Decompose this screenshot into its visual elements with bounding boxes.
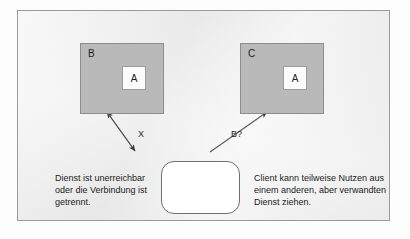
caption-left-line-3: getrennt. (55, 196, 147, 208)
caption-right-line-2: einem anderen, aber verwandten (254, 184, 386, 196)
diagram-figure: B A C A X B? Dienst ist unerreichbar ode… (0, 0, 410, 239)
client-node (161, 161, 240, 214)
caption-left: Dienst ist unerreichbar oder die Verbind… (55, 172, 147, 208)
caption-left-line-1: Dienst ist unerreichbar (55, 172, 147, 184)
caption-right: Client kann teilweise Nutzen aus einem a… (254, 172, 386, 208)
diagram-frame: B A C A X B? Dienst ist unerreichbar ode… (17, 10, 390, 221)
node-box-c-inner-a: A (283, 66, 307, 90)
caption-left-line-2: oder die Verbindung ist (55, 184, 147, 196)
node-box-b-inner-a: A (122, 66, 146, 90)
node-box-b-label: B (88, 48, 95, 60)
node-box-b: B A (80, 43, 164, 114)
edge-label-x: X (138, 129, 144, 140)
edge-label-b: B? (231, 129, 242, 140)
edge-x (107, 112, 135, 151)
caption-right-line-1: Client kann teilweise Nutzen aus (254, 172, 386, 184)
caption-right-line-3: Dienst ziehen. (254, 196, 386, 208)
node-box-c: C A (240, 43, 324, 114)
node-box-c-label: C (248, 48, 255, 60)
